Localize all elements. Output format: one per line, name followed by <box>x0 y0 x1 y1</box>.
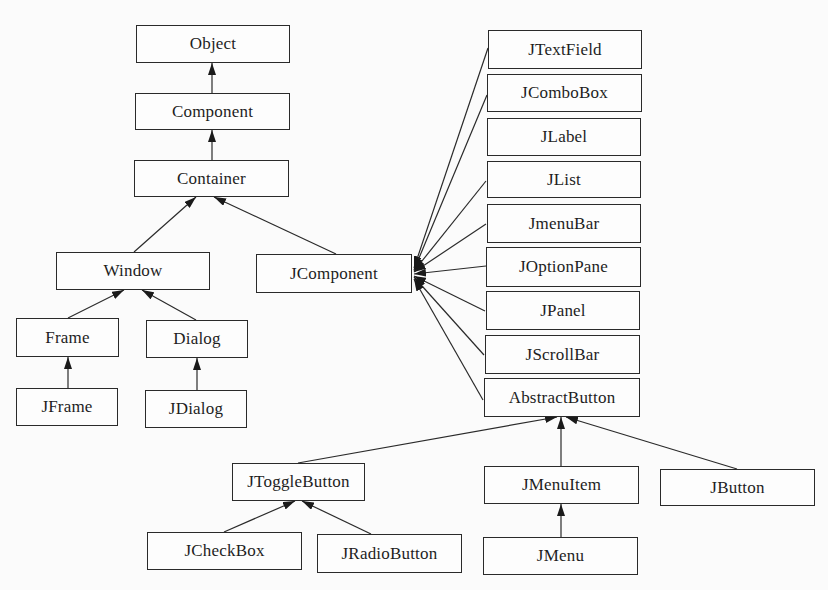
class-node-frame: Frame <box>16 318 119 357</box>
class-node-jtogglebutton: JToggleButton <box>232 463 365 501</box>
class-node-jscrollbar: JScrollBar <box>485 335 640 374</box>
class-node-component: Component <box>135 93 290 130</box>
class-node-jcombobox: JComboBox <box>487 74 642 112</box>
class-node-window: Window <box>56 252 210 290</box>
class-node-abstractbutton: AbstractButton <box>484 378 640 417</box>
class-node-jlabel: JLabel <box>487 118 641 156</box>
edge-jpanel-to-jcomponent <box>414 276 485 311</box>
edge-jscrollbar-to-jcomponent <box>414 277 484 355</box>
class-node-jcheckbox: JCheckBox <box>147 532 302 570</box>
class-node-container: Container <box>134 160 289 197</box>
edge-jcomponent-to-container <box>214 197 336 254</box>
edge-jradiobutton-to-jtogglebutton <box>302 501 371 534</box>
edge-jtogglebutton-to-abstractbutton <box>298 417 557 463</box>
class-node-jmenuitem: JMenuItem <box>484 466 639 504</box>
edge-abstractbutton-to-jcomponent <box>414 279 483 400</box>
edge-window-to-container <box>134 197 196 252</box>
class-node-dialog: Dialog <box>146 320 248 358</box>
edge-frame-to-window <box>68 290 124 318</box>
edge-jtextfield-to-jcomponent <box>414 48 488 268</box>
edge-jbutton-to-abstractbutton <box>566 417 737 469</box>
edge-jcheckbox-to-jtogglebutton <box>224 501 295 532</box>
edge-jmenubar-to-jcomponent <box>414 224 486 272</box>
edge-jcombobox-to-jcomponent <box>414 95 487 270</box>
class-node-jdialog: JDialog <box>145 390 247 428</box>
class-node-jpanel: JPanel <box>486 291 640 330</box>
class-node-jmenubar: JmenuBar <box>487 204 641 243</box>
edge-joptionpane-to-jcomponent <box>414 266 486 274</box>
class-node-jbutton: JButton <box>660 469 815 506</box>
edge-dialog-to-window <box>142 290 196 320</box>
class-node-jradiobutton: JRadioButton <box>317 534 462 573</box>
class-node-joptionpane: JOptionPane <box>486 247 641 287</box>
class-node-jcomponent: JComponent <box>256 254 412 293</box>
class-node-jmenu: JMenu <box>483 537 638 575</box>
class-node-jlist: JList <box>487 161 641 198</box>
class-node-object: Object <box>136 25 290 63</box>
edge-jlist-to-jcomponent <box>414 181 486 271</box>
class-node-jframe: JFrame <box>16 388 118 426</box>
class-node-jtextfield: JTextField <box>488 30 642 69</box>
